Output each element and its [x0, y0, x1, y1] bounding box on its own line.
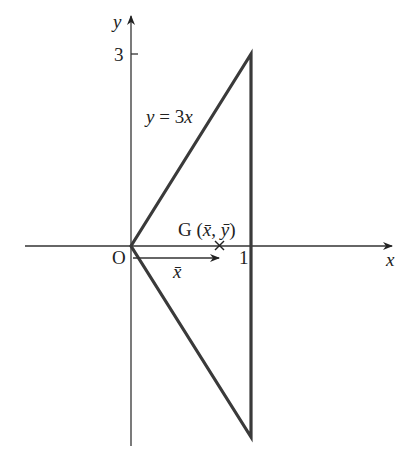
centroid-label: G (x̄, ȳ) [178, 219, 236, 241]
centroid-diagram: y 3 x O 1 y = 3x G (x̄, ȳ) x̄ [0, 0, 413, 468]
xbar-arrow-label: x̄ [172, 261, 182, 282]
centroid-label-ybar: ȳ [219, 219, 230, 240]
centroid-label-g: G ( [178, 219, 203, 241]
x-axis-label: x [385, 249, 395, 270]
curve-label: y = 3x [144, 106, 193, 127]
centroid-label-close: ) [229, 219, 235, 241]
curve-label-lhs: y [144, 106, 155, 127]
y-axis-label: y [111, 11, 122, 32]
origin-label: O [112, 247, 126, 268]
y-tick-label: 3 [114, 44, 124, 65]
curve-label-rhs: x [183, 106, 193, 127]
curve-label-eq: = 3 [154, 106, 184, 127]
x-tick-label: 1 [239, 247, 249, 268]
centroid-label-comma: , [211, 219, 221, 240]
